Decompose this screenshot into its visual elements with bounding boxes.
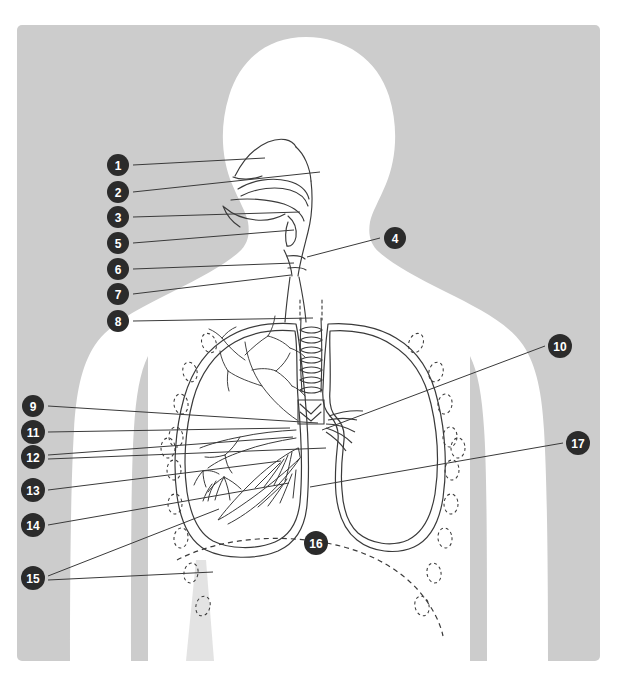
label-badge-text-5: 5: [115, 237, 122, 251]
label-badge-text-9: 9: [30, 400, 37, 414]
label-badge-text-4: 4: [392, 232, 399, 246]
label-badge-7[interactable]: 7: [107, 283, 129, 305]
label-badge-text-15: 15: [26, 572, 40, 586]
diagram-stage: 1235678491011121314151716: [0, 0, 618, 677]
label-badge-10[interactable]: 10: [548, 334, 572, 358]
label-badge-text-14: 14: [26, 519, 40, 533]
label-badge-text-3: 3: [115, 211, 122, 225]
label-badge-1[interactable]: 1: [107, 154, 129, 176]
label-badge-text-7: 7: [115, 288, 122, 302]
label-badge-2[interactable]: 2: [107, 181, 129, 203]
label-badge-13[interactable]: 13: [21, 478, 45, 502]
label-badge-text-2: 2: [115, 186, 122, 200]
label-badge-3[interactable]: 3: [107, 206, 129, 228]
label-badge-11[interactable]: 11: [21, 420, 45, 444]
label-badge-4[interactable]: 4: [384, 227, 406, 249]
label-badge-17[interactable]: 17: [566, 431, 590, 455]
label-badge-16[interactable]: 16: [304, 531, 328, 555]
label-badge-15[interactable]: 15: [21, 566, 45, 590]
label-badge-12[interactable]: 12: [21, 445, 45, 469]
label-badge-text-10: 10: [553, 340, 567, 354]
label-badge-text-13: 13: [26, 484, 40, 498]
label-badge-text-1: 1: [115, 159, 122, 173]
label-badge-9[interactable]: 9: [22, 395, 44, 417]
label-badge-text-16: 16: [309, 537, 323, 551]
label-badge-text-11: 11: [27, 426, 40, 440]
label-badge-6[interactable]: 6: [107, 258, 129, 280]
label-badge-5[interactable]: 5: [107, 232, 129, 254]
label-badge-text-12: 12: [26, 451, 40, 465]
label-badge-14[interactable]: 14: [21, 513, 45, 537]
respiratory-system-diagram: 1235678491011121314151716: [0, 0, 618, 677]
label-badge-text-17: 17: [571, 437, 585, 451]
label-badge-text-6: 6: [115, 263, 122, 277]
label-badge-8[interactable]: 8: [107, 310, 129, 332]
label-badge-text-8: 8: [115, 315, 122, 329]
